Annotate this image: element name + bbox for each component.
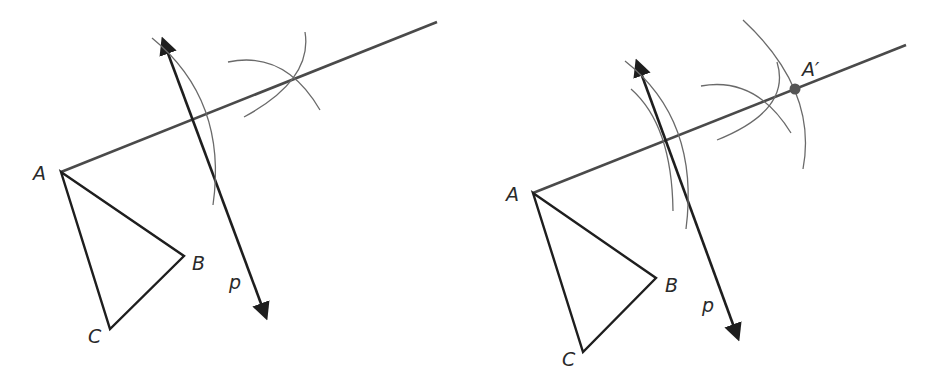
figure-right: A B C p A′ [504,20,906,370]
label-a: A [504,183,519,205]
triangle-abc [61,172,184,329]
figure-left: A B C p [31,22,437,347]
compass-arc-large [152,38,215,205]
label-p: p [701,294,714,316]
line-p [637,62,738,338]
compass-arc-vertical [717,62,780,140]
point-a-prime [790,84,801,95]
label-p: p [228,271,241,293]
compass-arc-upper [228,60,320,110]
label-a-prime: A′ [800,58,820,80]
triangle-abc [533,193,656,352]
label-c: C [562,348,576,370]
label-a: A [31,162,46,184]
label-b: B [665,274,678,296]
compass-arc-vertical [244,32,306,117]
label-b: B [192,252,205,274]
ray-from-a [61,22,437,172]
reflection-construction-diagram: A B C p A B C p A′ [0,0,936,391]
line-p [163,40,266,317]
label-c: C [88,325,102,347]
ray-from-a [533,45,906,193]
compass-arc-outer [743,20,806,169]
